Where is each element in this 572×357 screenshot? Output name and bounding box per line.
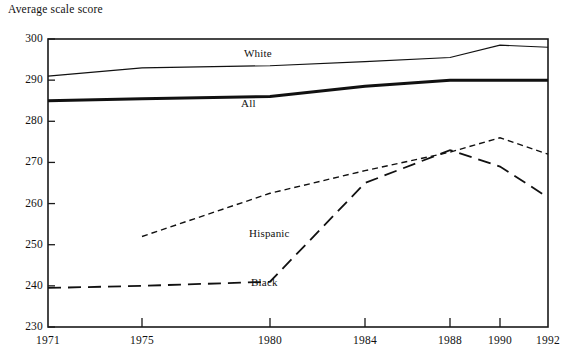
series-label-hispanic: Hispanic [249, 227, 290, 239]
x-tick-label-1988: 1988 [428, 334, 472, 346]
y-tick-label-260: 260 [0, 197, 43, 209]
x-tick-label-1971: 1971 [26, 334, 70, 346]
y-tick-label-240: 240 [0, 279, 43, 291]
x-tick-label-1992: 1992 [526, 334, 570, 346]
chart-plot-area [0, 0, 572, 357]
y-tick-label-230: 230 [0, 320, 43, 332]
series-label-all: All [241, 97, 256, 109]
x-tick-label-1980: 1980 [248, 334, 292, 346]
series-line-white [48, 45, 548, 76]
x-tick-label-1990: 1990 [478, 334, 522, 346]
y-tick-label-290: 290 [0, 73, 43, 85]
y-tick-label-280: 280 [0, 114, 43, 126]
series-line-black [48, 150, 548, 288]
series-line-all [48, 80, 548, 101]
series-label-white: White [244, 47, 272, 59]
y-tick-label-300: 300 [0, 32, 43, 44]
x-tick-label-1975: 1975 [120, 334, 164, 346]
x-tick-label-1984: 1984 [343, 334, 387, 346]
plot-frame [48, 39, 548, 327]
data-series-group [48, 45, 548, 288]
series-line-hispanic [142, 138, 548, 237]
y-tick-label-250: 250 [0, 238, 43, 250]
series-label-black: Black [251, 276, 278, 288]
y-tick-label-270: 270 [0, 155, 43, 167]
chart-container: Average scale score 23024025026027028029… [0, 0, 572, 357]
